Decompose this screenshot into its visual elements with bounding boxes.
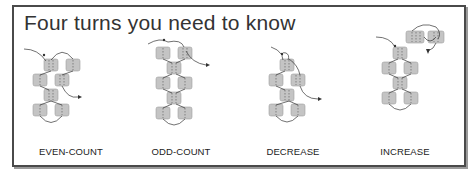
decrease-illustration bbox=[238, 7, 348, 165]
panel-odd-count: ODD-COUNT bbox=[126, 7, 236, 165]
increase-illustration bbox=[350, 7, 460, 165]
odd-count-illustration bbox=[126, 7, 236, 165]
even-count-illustration bbox=[16, 7, 126, 165]
diagram-frame: Four turns you need to know bbox=[12, 5, 466, 167]
panel-increase: INCREASE bbox=[350, 7, 460, 165]
panel-decrease: DECREASE bbox=[238, 7, 348, 165]
panel-even-count: EVEN-COUNT bbox=[16, 7, 126, 165]
label-decrease: DECREASE bbox=[238, 146, 348, 157]
label-increase: INCREASE bbox=[350, 146, 460, 157]
label-odd-count: ODD-COUNT bbox=[126, 146, 236, 157]
label-even-count: EVEN-COUNT bbox=[16, 146, 126, 157]
